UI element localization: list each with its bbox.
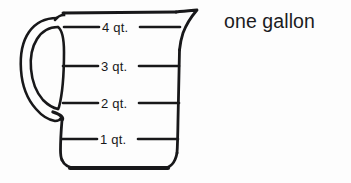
handle-inner-right-edge: [58, 27, 64, 109]
pouring-spout: [176, 10, 197, 50]
cup-rim: [63, 12, 176, 13]
figure-caption: one gallon: [224, 12, 315, 32]
graduation-label-2qt: 2 qt.: [101, 97, 127, 110]
graduation-label-1qt: 1 qt.: [100, 133, 126, 146]
handle-bottom-joint: [53, 112, 62, 120]
graduation-label-4qt: 4 qt.: [102, 21, 128, 34]
graduation-label-3qt: 3 qt.: [101, 60, 127, 73]
handle-inner-outline: [31, 27, 58, 109]
